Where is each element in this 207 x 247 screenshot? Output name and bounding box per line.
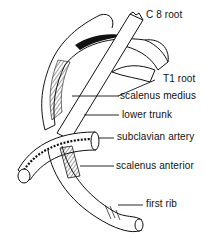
scalenus-medius-hatch: [50, 60, 70, 120]
label-t1-root: T1 root: [163, 73, 195, 85]
t1-root-shape: [112, 66, 155, 82]
first-rib-shape: [48, 146, 143, 232]
label-scalenus-anterior: scalenus anterior: [116, 160, 194, 172]
label-scalenus-medius: scalenus medius: [120, 90, 196, 102]
subclavian-artery-shape: [18, 132, 99, 183]
label-c8-root: C 8 root: [146, 9, 182, 21]
label-lower-trunk: lower trunk: [122, 109, 172, 121]
label-first-rib: first rib: [146, 198, 177, 210]
label-subclavian-artery: subclavian artery: [117, 131, 194, 143]
